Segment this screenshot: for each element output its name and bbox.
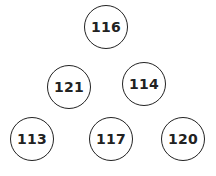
node-label: 114 (129, 76, 159, 92)
node-label: 120 (168, 131, 198, 147)
circle-node-bottom-right: 120 (161, 117, 205, 161)
node-label: 113 (17, 131, 47, 147)
circle-node-bottom-center: 117 (89, 117, 133, 161)
node-label: 121 (54, 79, 84, 95)
circle-node-middle-left: 121 (47, 65, 91, 109)
node-label: 117 (96, 131, 126, 147)
circle-node-bottom-left: 113 (10, 117, 54, 161)
node-label: 116 (91, 19, 121, 35)
circle-node-middle-right: 114 (122, 62, 166, 106)
circle-node-top: 116 (84, 5, 128, 49)
